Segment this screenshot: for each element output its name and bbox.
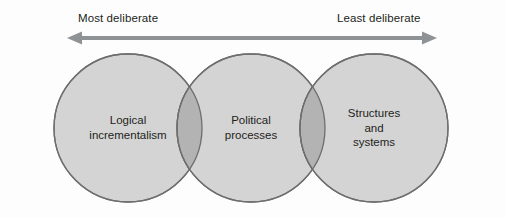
- venn-diagram-shapes: [0, 0, 505, 218]
- diagram-canvas: Most deliberate Least deliberate: [0, 0, 505, 218]
